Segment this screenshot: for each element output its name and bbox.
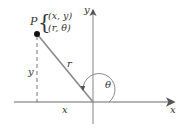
horizontal-segment-label: x — [62, 104, 68, 115]
vertical-segment-label: y — [27, 66, 34, 77]
polar-coordinates-diagram: P { (x, y) (r, θ) y x y x r θ — [0, 0, 185, 133]
polar-coords-label: (r, θ) — [48, 22, 71, 33]
radius-label: r — [67, 58, 73, 69]
x-axis-label: x — [170, 104, 176, 115]
rect-coords-label: (x, y) — [48, 10, 72, 21]
radius-line — [37, 34, 93, 102]
point-p-label: P — [29, 15, 38, 28]
angle-label: θ — [105, 79, 111, 90]
y-axis-label: y — [83, 4, 90, 15]
